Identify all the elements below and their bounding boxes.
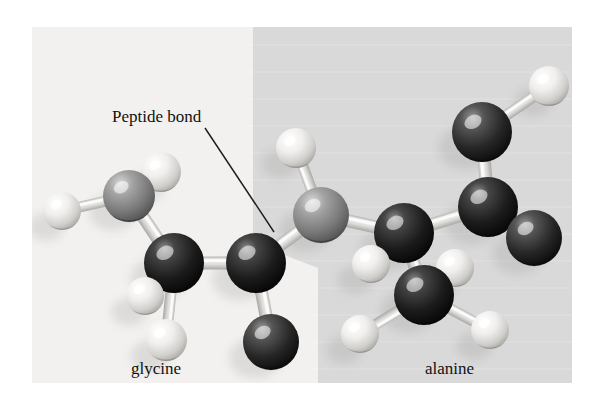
alanine-caption: alanine <box>425 359 474 378</box>
atom-hydrogen <box>145 319 187 361</box>
atom-hydrogen <box>529 66 569 106</box>
atom-carbon <box>226 233 286 293</box>
atom-hydrogen <box>352 245 390 283</box>
atom-hydrogen <box>276 128 316 168</box>
atom-oxygen <box>452 102 512 162</box>
atom-oxygen <box>243 314 299 370</box>
atom-hydrogen <box>341 315 379 353</box>
atom-hydrogen <box>43 192 81 230</box>
atom-oxygen <box>506 210 562 266</box>
atom-hydrogen <box>126 277 164 315</box>
molecular-model-figure: Peptide bond glycine alanine <box>0 0 598 404</box>
atom-nitrogen <box>293 187 349 243</box>
molecule-scene: Peptide bond glycine alanine <box>0 0 598 404</box>
atom-nitrogen <box>103 170 155 222</box>
atom-hydrogen <box>471 311 509 349</box>
glycine-caption: glycine <box>131 359 181 378</box>
peptide-bond-label: Peptide bond <box>112 107 202 126</box>
atom-carbon <box>394 265 454 325</box>
